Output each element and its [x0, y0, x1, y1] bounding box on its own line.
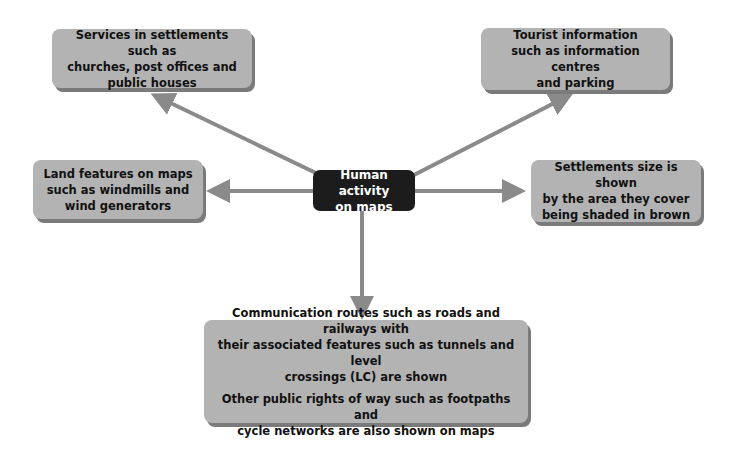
- node-text: Communication routes such as roads and r…: [232, 306, 500, 336]
- node-text: churches, post offices and: [67, 60, 237, 74]
- node-settlements: Settlements size is shown by the area th…: [531, 160, 701, 222]
- node-text: such as information centres: [511, 44, 640, 74]
- node-text: such as windmills and: [47, 183, 189, 197]
- node-text: public houses: [107, 76, 196, 90]
- node-land: Land features on maps such as windmills …: [33, 160, 203, 219]
- node-text: Settlements size is shown: [554, 160, 677, 190]
- node-tourist: Tourist information such as information …: [481, 28, 670, 90]
- node-services: Services in settlements such as churches…: [52, 29, 252, 88]
- node-text: Services in settlements such as: [76, 28, 228, 58]
- node-text: Other public rights of way such as footp…: [222, 392, 511, 422]
- node-text: and parking: [537, 76, 615, 90]
- node-text: crossings (LC) are shown: [285, 370, 448, 384]
- node-communication: Communication routes such as roads and r…: [204, 320, 528, 423]
- center-text: Human activity: [313, 167, 415, 199]
- node-text: their associated features such as tunnel…: [218, 338, 515, 368]
- node-text: by the area they cover: [543, 192, 690, 206]
- node-text: Land features on maps: [44, 167, 193, 181]
- node-text: cycle networks are also shown on maps: [237, 424, 494, 438]
- node-text: being shaded in brown: [542, 208, 690, 222]
- central-node: Human activity on maps: [313, 170, 415, 211]
- center-text: on maps: [335, 199, 392, 215]
- node-text: Tourist information: [513, 28, 637, 42]
- node-text: wind generators: [65, 199, 171, 213]
